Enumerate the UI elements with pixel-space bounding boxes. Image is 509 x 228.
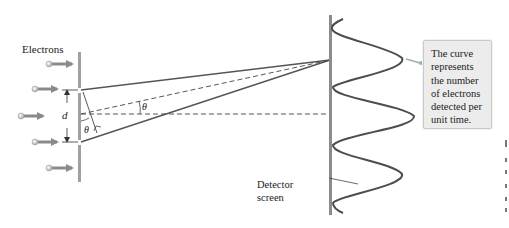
lower-ray — [81, 60, 330, 142]
electron-icon — [46, 61, 52, 67]
detector-label-line2: screen — [257, 191, 293, 204]
callout-leader — [406, 59, 423, 65]
curve-explanation-callout: The curve represents the number of elect… — [423, 40, 492, 129]
angle-theta-upper-label: θ — [142, 100, 147, 113]
electron-beam — [46, 61, 72, 67]
callout-line: The curve — [431, 47, 491, 60]
center-ray — [81, 60, 330, 114]
callout-line: represents — [431, 60, 491, 73]
angle-theta-lower-label: θ — [84, 123, 89, 136]
intensity-curve — [332, 19, 414, 213]
edge-fragment — [505, 197, 507, 201]
detector-label-line1: Detector — [257, 178, 293, 191]
callout-line: the number — [431, 74, 491, 87]
callout-line: unit time. — [431, 113, 491, 126]
electron-icon — [18, 113, 24, 119]
electron-beam — [32, 86, 57, 92]
rays — [81, 60, 330, 142]
path-difference-construction — [81, 92, 140, 133]
edge-fragment — [505, 140, 507, 147]
electron-icon — [46, 165, 52, 171]
detector-leader-line — [329, 178, 358, 184]
slit-separation-label: d — [62, 109, 68, 122]
electron-beam — [46, 165, 72, 171]
upper-ray — [81, 60, 330, 90]
electron-beam — [32, 139, 57, 145]
edge-fragment — [505, 170, 507, 174]
detector-label: Detector screen — [257, 178, 293, 204]
callout-line: of electrons — [431, 87, 491, 100]
edge-fragment — [505, 208, 507, 212]
detector-screen — [329, 15, 332, 215]
electrons-label: Electrons — [22, 43, 64, 56]
electron-icon — [32, 86, 38, 92]
slit-barrier — [78, 52, 81, 182]
callout-line: detected per — [431, 100, 491, 113]
edge-fragment — [505, 158, 507, 162]
electron-beam — [18, 113, 43, 119]
electron-icon — [32, 139, 38, 145]
edge-fragment — [505, 184, 507, 188]
